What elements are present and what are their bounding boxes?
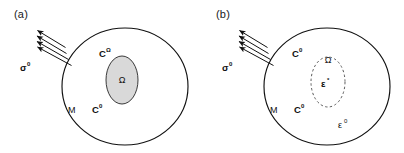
matrix-stiffness-base-b: C [294, 104, 301, 115]
inclusion-stiffness-base-a: C [99, 48, 106, 59]
inclusion-region-label-a: Ω [119, 75, 126, 85]
matrix-label-a: M [68, 105, 76, 115]
matrix-stiffness-base-a: C [92, 104, 99, 115]
inclusion-stiffness-base-b: C [292, 48, 299, 59]
inclusion-stiffness-sup-a: Ω [106, 47, 111, 53]
remote-stress-arrows-a [37, 31, 72, 66]
sigma-symbol-a: σ [20, 62, 27, 73]
remote-stress-arrows-b [239, 31, 274, 66]
panel-a: (a) σ 0 [0, 0, 202, 153]
eshelby-equivalent-inclusion-figure: (a) σ 0 [0, 0, 404, 153]
sigma-superscript-b: 0 [229, 61, 233, 67]
matrix-boundary-b [264, 28, 390, 145]
panel-a-drawing: σ 0 C Ω Ω M C 0 [0, 0, 202, 153]
sigma-superscript-a: 0 [27, 61, 31, 67]
panel-b-drawing: σ 0 C 0 Ω ε * M C 0 [202, 0, 404, 153]
remote-stress-label-a: σ 0 [20, 61, 31, 73]
panel-b: (b) σ 0 [202, 0, 404, 153]
eigenstrain-base-b: ε [321, 78, 326, 89]
remote-stress-label-b: σ 0 [222, 61, 233, 73]
matrix-strain-base-b: ε [338, 120, 342, 130]
matrix-label-b: M [270, 105, 278, 115]
sigma-symbol-b: σ [222, 62, 229, 73]
inclusion-region-label-b: Ω [325, 55, 332, 65]
